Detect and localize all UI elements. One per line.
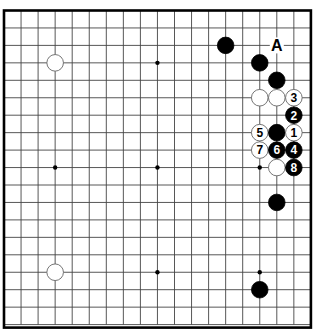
stone-circle (269, 194, 286, 211)
black-stone (269, 124, 286, 141)
move-number: 1 (291, 126, 298, 140)
black-stone: 2 (286, 107, 303, 124)
go-board: A 32517648 (0, 0, 315, 336)
black-stone (251, 55, 268, 72)
stone-circle (251, 89, 268, 106)
white-stone: 1 (286, 124, 303, 141)
star-point (258, 270, 262, 274)
move-number: 5 (256, 126, 263, 140)
black-stone (217, 37, 234, 54)
black-stone: 4 (286, 142, 303, 159)
move-number: 6 (273, 143, 280, 157)
stone-circle (269, 72, 286, 89)
stone-circle (47, 55, 64, 72)
stone-circle (269, 124, 286, 141)
white-stone (269, 89, 286, 106)
white-stone: 7 (251, 142, 268, 159)
stone-circle (269, 159, 286, 176)
star-point (155, 270, 159, 274)
black-stone (269, 194, 286, 211)
white-stone (47, 55, 64, 72)
move-number: 7 (256, 143, 263, 157)
stone-circle (269, 89, 286, 106)
move-number: 8 (291, 161, 298, 175)
point-label-a: A (271, 37, 283, 54)
star-point (258, 165, 262, 169)
white-stone (251, 89, 268, 106)
white-stone (47, 264, 64, 281)
stone-circle (251, 55, 268, 72)
star-point (155, 165, 159, 169)
stone-circle (47, 264, 64, 281)
black-stone: 6 (269, 142, 286, 159)
move-number: 3 (291, 91, 298, 105)
white-stone (269, 159, 286, 176)
move-number: 2 (291, 109, 298, 123)
black-stone (269, 72, 286, 89)
stone-circle (217, 37, 234, 54)
board-markers: A (270, 37, 284, 54)
black-stone (251, 281, 268, 298)
star-point (53, 165, 57, 169)
white-stone: 5 (251, 124, 268, 141)
white-stone: 3 (286, 89, 303, 106)
star-point (155, 61, 159, 65)
black-stone: 8 (286, 159, 303, 176)
move-number: 4 (291, 143, 298, 157)
stone-circle (251, 281, 268, 298)
